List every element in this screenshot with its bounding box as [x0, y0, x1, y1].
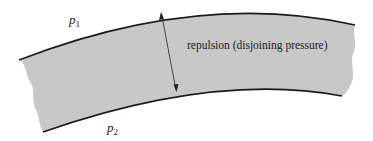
repulsion-label: repulsion (disjoining pressure)	[187, 39, 328, 51]
film-graphic	[0, 0, 373, 141]
label-p2: p2	[107, 120, 118, 137]
film-region	[19, 13, 355, 132]
label-p1: p1	[69, 12, 80, 29]
thin-film-diagram: p1 p2 repulsion (disjoining pressure)	[0, 0, 373, 141]
